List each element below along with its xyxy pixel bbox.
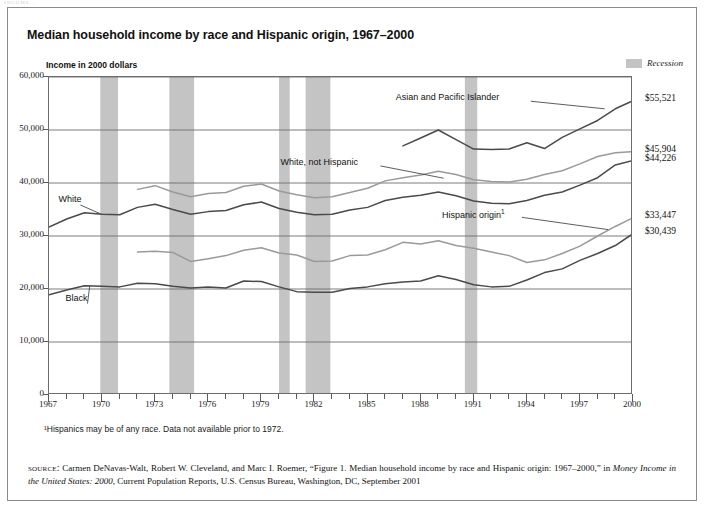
end-value-label: $44,226 <box>645 153 676 163</box>
end-value-label: $30,439 <box>645 226 676 236</box>
x-axis-tick-label: 1997 <box>559 399 599 409</box>
y-axis-tick-label: 50,000 <box>0 123 44 133</box>
series-annotation-white: White <box>58 194 81 204</box>
recession-band <box>100 77 118 394</box>
recession-band <box>306 77 331 394</box>
end-value-label: $55,521 <box>645 93 676 103</box>
series-line-black <box>49 234 632 295</box>
annotation-leader-line <box>531 101 605 109</box>
recession-legend: Recession <box>626 58 683 68</box>
x-axis-tick-label: 1979 <box>240 399 280 409</box>
series-line-white <box>49 161 632 227</box>
recession-swatch-icon <box>626 59 642 68</box>
series-annotation-white-not-hispanic: White, not Hispanic <box>280 157 358 167</box>
x-axis-tick-label: 1967 <box>28 399 68 409</box>
y-axis-unit-note: Income in 2000 dollars <box>46 60 137 70</box>
recession-legend-label: Recession <box>647 58 683 68</box>
x-axis-tick-label: 1985 <box>347 399 387 409</box>
source-text-1: Carmen DeNavas-Walt, Robert W. Cleveland… <box>60 463 613 473</box>
y-axis-tick-label: 40,000 <box>0 176 44 186</box>
x-axis-tick-label: 1970 <box>81 399 121 409</box>
figure-page: INCOME ... Median household income by ra… <box>0 0 705 509</box>
source-note: source: Carmen DeNavas-Walt, Robert W. C… <box>28 462 676 488</box>
chart-plot-area <box>48 76 632 394</box>
series-annotation-asian-and-pacific-islander: Asian and Pacific Islander <box>396 92 500 102</box>
cropped-header-strip: INCOME ... <box>0 0 705 6</box>
cropped-header-text: INCOME ... <box>0 0 705 6</box>
source-text-2: Current Population Reports, U.S. Census … <box>115 476 421 486</box>
recession-band <box>279 77 290 394</box>
recession-band <box>169 77 194 394</box>
annotation-leader-line <box>522 217 608 229</box>
series-line-hispanic-origin <box>137 218 632 263</box>
series-line-white-not-hispanic <box>137 152 632 198</box>
x-axis-tick-label: 1973 <box>134 399 174 409</box>
y-axis-tick-label: 60,000 <box>0 70 44 80</box>
x-axis-tick-label: 1976 <box>187 399 227 409</box>
chart-canvas <box>49 77 632 394</box>
figure-title: Median household income by race and Hisp… <box>27 28 414 42</box>
y-axis-tick-label: 10,000 <box>0 335 44 345</box>
x-axis-tick-label: 1991 <box>453 399 493 409</box>
footnote: ¹Hispanics may be of any race. Data not … <box>44 424 284 434</box>
x-axis-tick-label: 2000 <box>612 399 652 409</box>
recession-band <box>465 77 477 394</box>
source-prefix: source: <box>28 463 60 473</box>
y-axis-tick-label: 20,000 <box>0 282 44 292</box>
footnote-marker: 1 <box>501 208 505 215</box>
series-annotation-hispanic-origin: Hispanic origin1 <box>442 208 505 220</box>
y-axis-tick-label: 30,000 <box>0 229 44 239</box>
x-axis-tick-label: 1988 <box>400 399 440 409</box>
series-annotation-black: Black <box>65 293 87 303</box>
end-value-label: $33,447 <box>645 210 676 220</box>
x-axis-tick-label: 1982 <box>293 399 333 409</box>
x-axis-tick-label: 1994 <box>506 399 546 409</box>
y-axis-tick-label: 0 <box>0 388 44 398</box>
